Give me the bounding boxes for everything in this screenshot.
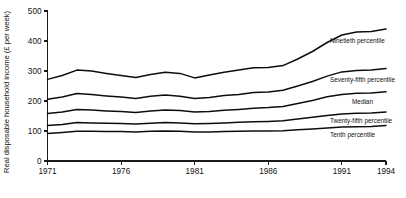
y-tick-label: 400 — [28, 37, 42, 46]
y-axis-ticks: 0100200300400500 — [28, 7, 48, 166]
chart-container: Real disposable household income (£ per … — [0, 0, 406, 198]
y-tick-label: 300 — [28, 67, 42, 76]
series-label-tenth-percentile: Tenth percentile — [330, 131, 376, 139]
y-tick-label: 200 — [28, 97, 42, 106]
y-axis-title: Real disposable household income (£ per … — [2, 10, 11, 173]
x-tick-label: 1991 — [333, 167, 352, 176]
series-label-twenty-fifth-percentile: Twenty-fifth percentile — [330, 117, 393, 125]
series-label-ninetieth-percentile: Ninetieth percentile — [330, 37, 385, 45]
x-tick-label: 1986 — [259, 167, 278, 176]
y-tick-label: 100 — [28, 127, 42, 136]
series-labels: Ninetieth percentileSeventy-fifth percen… — [330, 37, 395, 139]
x-tick-label: 1994 — [377, 167, 396, 176]
y-tick-label: 0 — [37, 157, 42, 166]
x-axis-ticks: 197119761981198619911994 — [38, 161, 395, 176]
series-label-median: Median — [352, 98, 373, 105]
x-tick-label: 1976 — [112, 167, 131, 176]
x-tick-label: 1971 — [38, 167, 57, 176]
y-axis-title-text: Real disposable household income (£ per … — [2, 10, 11, 173]
y-tick-label: 500 — [28, 7, 42, 16]
series-label-seventy-fifth-percentile: Seventy-fifth percentile — [330, 76, 395, 84]
x-tick-label: 1981 — [186, 167, 205, 176]
line-chart: Real disposable household income (£ per … — [0, 0, 406, 198]
